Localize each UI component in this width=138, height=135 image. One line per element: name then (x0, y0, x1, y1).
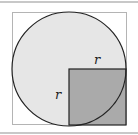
circle-square-diagram: r r (0, 0, 138, 135)
top-radius-label: r (94, 52, 101, 67)
bottom-rule (0, 132, 138, 134)
left-radius-label: r (55, 87, 62, 102)
shaded-square (69, 69, 126, 125)
